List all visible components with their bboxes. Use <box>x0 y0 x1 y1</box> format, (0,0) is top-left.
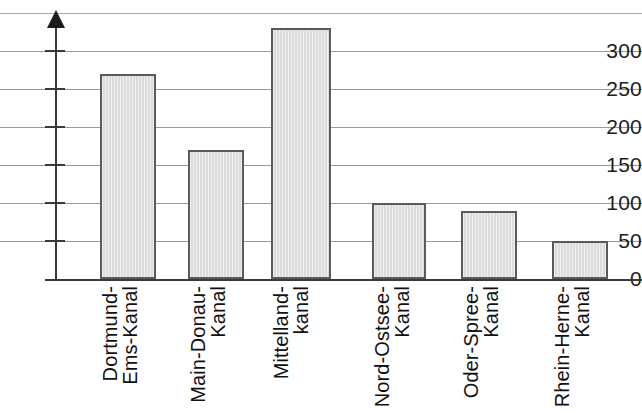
y-axis <box>55 18 57 280</box>
category-label-line1: Oder-Spree- <box>461 286 481 398</box>
category-label-rhein-herne-kanal: Rhein-Herne- Kanal <box>552 286 610 410</box>
bar-mittellandkanal <box>271 28 331 279</box>
y-tick-label-300: 300 <box>598 40 642 61</box>
category-label-nord-ostsee-kanal: Nord-Ostsee- Kanal <box>372 286 430 410</box>
y-tick-label-200: 200 <box>598 116 642 137</box>
category-label-line2: Kanal <box>481 286 501 338</box>
category-label-line1: Rhein-Herne- <box>552 286 572 407</box>
bar-main-donau-kanal <box>188 150 244 279</box>
category-label-main-donau-kanal: Main-Donau- Kanal <box>188 286 246 410</box>
category-label-dortmund-ems-kanal: Dortmund- Ems-Kanal <box>100 286 158 410</box>
bar-chart: 300 250 200 150 100 50 0 Dortmund- Ems-K… <box>0 0 642 413</box>
category-label-line2: Kanal <box>208 286 228 338</box>
bar-oder-spree-kanal <box>461 211 517 279</box>
category-label-oder-spree-kanal: Oder-Spree- Kanal <box>461 286 519 410</box>
category-label-line1: Nord-Ostsee- <box>372 286 392 407</box>
category-label-mittellandkanal: Mittelland- kanal <box>271 286 329 410</box>
plot-area: 300 250 200 150 100 50 0 <box>0 0 642 290</box>
y-axis-arrow-icon <box>47 10 65 28</box>
plot-top-border <box>0 13 642 14</box>
category-label-line2: Kanal <box>572 286 592 338</box>
category-label-line1: Main-Donau- <box>188 286 208 403</box>
bar-dortmund-ems-kanal <box>100 74 156 279</box>
y-tick-label-150: 150 <box>598 154 642 175</box>
category-label-line1: Dortmund- <box>100 286 120 381</box>
bar-rhein-herne-kanal <box>552 241 608 279</box>
category-label-line2: kanal <box>291 286 311 334</box>
bar-nord-ostsee-kanal <box>372 203 426 279</box>
category-label-line1: Mittelland- <box>271 286 291 379</box>
category-label-line2: Kanal <box>392 286 412 338</box>
y-tick-label-250: 250 <box>598 78 642 99</box>
category-label-line2: Ems-Kanal <box>120 286 140 385</box>
y-tick-label-100: 100 <box>598 192 642 213</box>
x-axis <box>45 279 642 281</box>
